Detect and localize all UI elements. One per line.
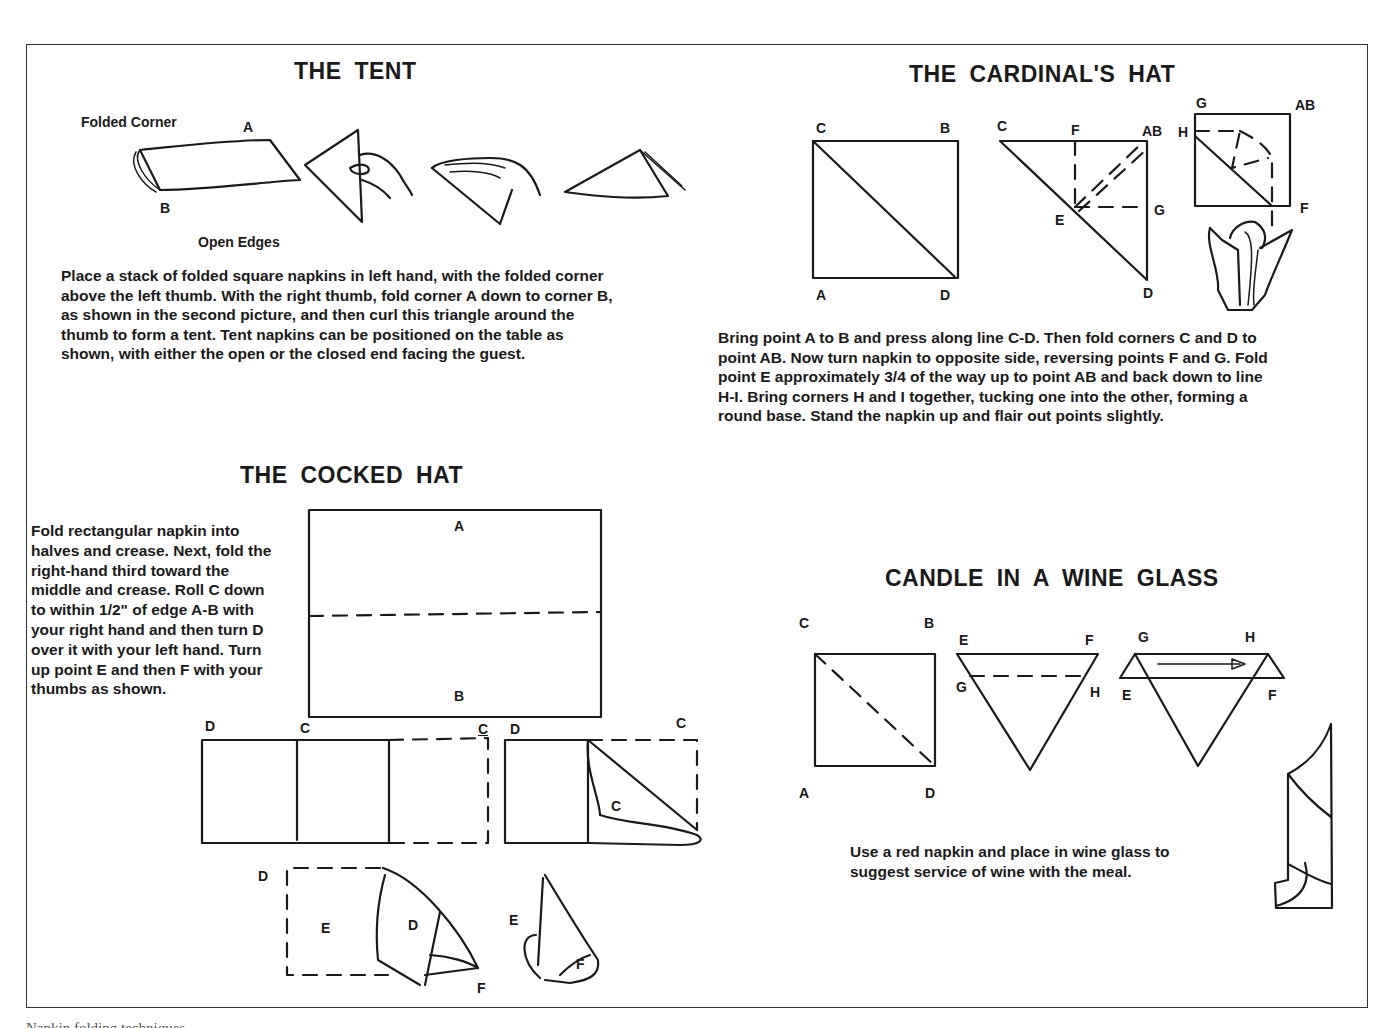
cardinal-fig1-label-a: A (816, 287, 826, 303)
candle-fig1-label-b: B (924, 615, 934, 631)
cocked-step3-roll (505, 740, 701, 845)
candle-title: CANDLE IN A WINE GLASS (885, 565, 1219, 592)
cardinal-step2-triangle (1000, 141, 1147, 280)
cocked-fig2-label-d: D (205, 718, 215, 734)
candle-fig3-label-f: F (1268, 687, 1277, 703)
candle-step1-square (815, 654, 935, 766)
candle-fig2-label-e: E (959, 632, 968, 648)
cardinal-fig3-label-g: G (1196, 95, 1207, 111)
cardinal-fig2-label-f: F (1071, 122, 1080, 138)
cardinal-fig1-label-c: C (816, 120, 826, 136)
cocked-fig4-label-f: F (477, 980, 486, 996)
cocked-fig2-label-c2: C (478, 721, 488, 737)
candle-fig2-label-h: H (1090, 684, 1100, 700)
tent-label-b: B (160, 200, 170, 216)
candle-instructions: Use a red napkin and place in wine glass… (850, 842, 1170, 881)
cocked-fig3-label-c-inner: C (611, 798, 621, 814)
cardinal-fig2-label-c: C (997, 118, 1007, 134)
candle-step3-roll (1120, 654, 1284, 766)
figure-caption: Napkin folding techniques (26, 1020, 185, 1028)
cardinal-hat-finished-icon (1209, 222, 1292, 310)
cardinal-fig2-label-g: G (1154, 202, 1165, 218)
cocked-hat-instructions: Fold rectangular napkin into halves and … (31, 521, 271, 699)
cardinal-fig3-label-h: H (1178, 124, 1188, 140)
candle-fig2-label-f: F (1085, 632, 1094, 648)
cocked-step4-fold (287, 868, 478, 985)
cocked-fig4-label-d-inner: D (408, 917, 418, 933)
cardinal-fig3-label-ab: AB (1295, 97, 1315, 113)
cocked-step2-thirds (202, 738, 488, 843)
tent-label-folded-corner: Folded Corner (81, 114, 177, 130)
cocked-hat-title: THE COCKED HAT (240, 462, 463, 489)
cardinal-fig2-label-d: D (1143, 285, 1153, 301)
cardinals-hat-instructions: Bring point A to B and press along line … (718, 328, 1268, 426)
cocked-fig1-label-b: B (454, 688, 464, 704)
cocked-fig4-label-e: E (321, 920, 330, 936)
cocked-fig3-label-c: C (676, 715, 686, 731)
candle-fig3-label-g: G (1138, 629, 1149, 645)
cardinal-step3-square (1195, 114, 1290, 230)
cocked-hat-finished-icon (524, 875, 598, 983)
candle-fig3-label-e: E (1122, 687, 1131, 703)
candle-fig1-label-a: A (799, 785, 809, 801)
illustrations (0, 0, 1387, 1028)
tent-label-open-edges: Open Edges (198, 234, 280, 250)
cardinal-fig3-label-f: F (1300, 200, 1309, 216)
cardinal-fig2-label-e: E (1055, 212, 1064, 228)
candle-fig1-label-d: D (925, 785, 935, 801)
cardinal-step1-square (813, 141, 958, 278)
cocked-step1-rectangle (309, 510, 601, 717)
cardinals-hat-title: THE CARDINAL'S HAT (909, 61, 1175, 88)
tent-step4-tent-icon (565, 150, 685, 198)
candle-fig1-label-c: C (799, 615, 809, 631)
tent-step1-folded-napkin-icon (134, 140, 300, 192)
cocked-fig4-label-d: D (258, 868, 268, 884)
tent-label-a: A (243, 119, 253, 135)
tent-step3-hand-icon (432, 158, 540, 224)
cocked-fig5-label-f: F (576, 956, 585, 972)
tent-title: THE TENT (294, 58, 416, 85)
cocked-fig5-label-e: E (509, 912, 518, 928)
cardinal-fig1-label-b: B (940, 120, 950, 136)
cocked-fig1-label-a: A (454, 518, 464, 534)
candle-fig2-label-g: G (956, 679, 967, 695)
candle-in-glass-finished-icon (1275, 724, 1332, 908)
cocked-fig2-label-c: C (300, 720, 310, 736)
cocked-fig3-label-d: D (510, 721, 520, 737)
cardinal-fig2-label-ab: AB (1142, 123, 1162, 139)
tent-step2-hand-icon (305, 130, 412, 222)
candle-step2-triangle (957, 654, 1098, 770)
cardinal-fig1-label-d: D (940, 287, 950, 303)
candle-fig3-label-h: H (1245, 629, 1255, 645)
tent-instructions: Place a stack of folded square napkins i… (61, 266, 613, 364)
